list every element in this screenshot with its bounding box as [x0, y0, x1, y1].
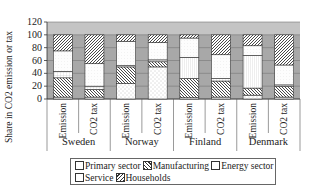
bar-segment-manufacturing	[117, 67, 136, 84]
x-group-label: Norway	[125, 136, 160, 147]
bar-segment-households	[53, 35, 72, 51]
legend-swatch-icon	[75, 161, 84, 170]
x-category-label: Emission	[248, 103, 258, 139]
y-tick-label: 60	[32, 55, 42, 66]
plot-area-top-band	[47, 22, 300, 35]
bar-segment-energy-sector	[180, 57, 199, 78]
legend-label: Energy sector	[221, 161, 273, 171]
legend-item-primary-sector: Primary sector	[75, 160, 141, 172]
legend-label: Service	[85, 173, 114, 183]
bar-segment-primary-sector	[243, 95, 262, 99]
legend-swatch-icon	[211, 161, 220, 170]
bar-segment-households	[243, 35, 262, 46]
bar-segment-manufacturing	[85, 89, 104, 97]
bar-segment-energy-sector	[243, 55, 262, 88]
x-category-label: CO2 tax	[279, 103, 289, 135]
y-tick-label: 20	[32, 80, 42, 91]
bar-segment-households	[180, 35, 199, 38]
legend-label: Manufacturing	[153, 161, 209, 171]
bar-segment-households	[148, 35, 167, 43]
bar-segment-manufacturing	[211, 81, 230, 97]
y-tick-label: 100	[27, 29, 42, 40]
legend: Primary sectorManufacturingEnergy sector…	[70, 158, 276, 185]
bar-segment-energy-sector	[211, 78, 230, 81]
legend-item-households: Households	[116, 172, 171, 184]
x-category-label: CO2 tax	[216, 103, 226, 135]
y-tick-label: 80	[32, 42, 42, 53]
x-category-label: CO2 tax	[89, 103, 99, 135]
x-group-label: Finland	[189, 136, 222, 147]
bar-segment-manufacturing	[275, 86, 294, 97]
bar-segment-primary-sector	[117, 84, 136, 99]
bar-segment-households	[85, 35, 104, 64]
x-group-label: Denmark	[249, 136, 289, 147]
legend-label: Households	[126, 173, 171, 183]
bar-segment-manufacturing	[180, 78, 199, 97]
bar-segment-energy-sector	[85, 86, 104, 89]
bar-segment-energy-sector	[53, 71, 72, 77]
bar-segment-service	[148, 43, 167, 60]
bar-segment-households	[117, 35, 136, 41]
legend-item-manufacturing: Manufacturing	[143, 160, 209, 172]
y-tick-label: 120	[27, 16, 42, 27]
y-tick-label: 40	[32, 67, 42, 78]
legend-label: Primary sector	[85, 161, 141, 171]
bar-segment-service	[243, 46, 262, 56]
x-category-label: Emission	[58, 103, 68, 139]
bar-segment-manufacturing	[53, 78, 72, 97]
legend-swatch-icon	[116, 173, 125, 182]
x-group-label: Sweden	[62, 136, 96, 147]
legend-item-energy-sector: Energy sector	[211, 160, 273, 172]
bar-segment-service	[53, 51, 72, 72]
bar-segment-service	[180, 38, 199, 57]
x-category-label: CO2 tax	[153, 103, 163, 135]
bar-segment-service	[211, 55, 230, 79]
legend-item-service: Service	[75, 172, 114, 184]
legend-swatch-icon	[143, 161, 152, 170]
bar-segment-service	[117, 41, 136, 65]
bar-segment-service	[85, 64, 104, 86]
x-category-label: Emission	[121, 103, 131, 139]
bar-segment-households	[275, 35, 294, 65]
bar-segment-manufacturing	[148, 62, 167, 67]
bar-segment-households	[211, 35, 230, 55]
x-category-label: Emission	[184, 103, 194, 139]
legend-swatch-icon	[75, 173, 84, 182]
y-tick-label: 0	[37, 93, 42, 104]
bar-segment-service	[275, 65, 294, 85]
bar-segment-primary-sector	[148, 67, 167, 99]
bar-segment-manufacturing	[243, 88, 262, 95]
